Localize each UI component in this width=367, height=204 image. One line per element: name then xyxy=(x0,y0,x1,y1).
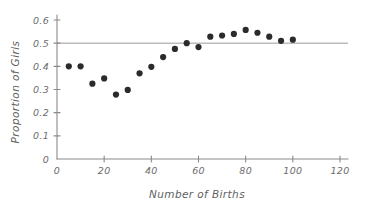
data-point xyxy=(195,44,201,50)
y-tick-label: 0.6 xyxy=(33,15,49,26)
data-point xyxy=(219,32,225,38)
x-tick-label: 60 xyxy=(192,165,205,176)
data-point xyxy=(278,38,284,44)
y-tick-label: 0.3 xyxy=(33,84,49,95)
data-point xyxy=(266,34,272,40)
y-tick-label: 0.2 xyxy=(33,107,49,118)
data-point xyxy=(101,75,107,81)
data-point xyxy=(77,63,83,69)
y-tick-label: 0.4 xyxy=(33,61,49,72)
y-tick-label: 0 xyxy=(43,154,49,165)
data-point xyxy=(113,91,119,97)
data-point xyxy=(125,87,131,93)
x-tick-label: 100 xyxy=(283,165,302,176)
data-point xyxy=(66,63,72,69)
data-point xyxy=(243,27,249,33)
y-axis-title: Proportion of Girls xyxy=(9,40,21,143)
plot-canvas: 020406080100120 00.10.20.30.40.50.6 Numb… xyxy=(0,0,367,204)
data-point xyxy=(290,37,296,43)
x-tick-label: 80 xyxy=(239,165,252,176)
data-point xyxy=(184,40,190,46)
data-point xyxy=(136,70,142,76)
data-point xyxy=(207,34,213,40)
data-point xyxy=(148,64,154,70)
scatter-plot-figure: 020406080100120 00.10.20.30.40.50.6 Numb… xyxy=(0,0,367,204)
data-point xyxy=(231,31,237,37)
plot-axes xyxy=(57,15,348,159)
data-point xyxy=(89,81,95,87)
x-tick-label: 0 xyxy=(54,165,60,176)
x-axis-title: Number of Births xyxy=(149,188,245,200)
y-tick-label: 0.5 xyxy=(33,38,49,49)
x-tick-label: 40 xyxy=(145,165,158,176)
data-point xyxy=(172,46,178,52)
x-tick-label: 20 xyxy=(98,165,111,176)
data-points xyxy=(66,27,296,98)
x-tick-label: 120 xyxy=(330,165,349,176)
y-tick-label: 0.1 xyxy=(33,130,49,141)
data-point xyxy=(160,54,166,60)
data-point xyxy=(254,30,260,36)
y-axis-ticks: 00.10.20.30.40.50.6 xyxy=(33,15,60,165)
